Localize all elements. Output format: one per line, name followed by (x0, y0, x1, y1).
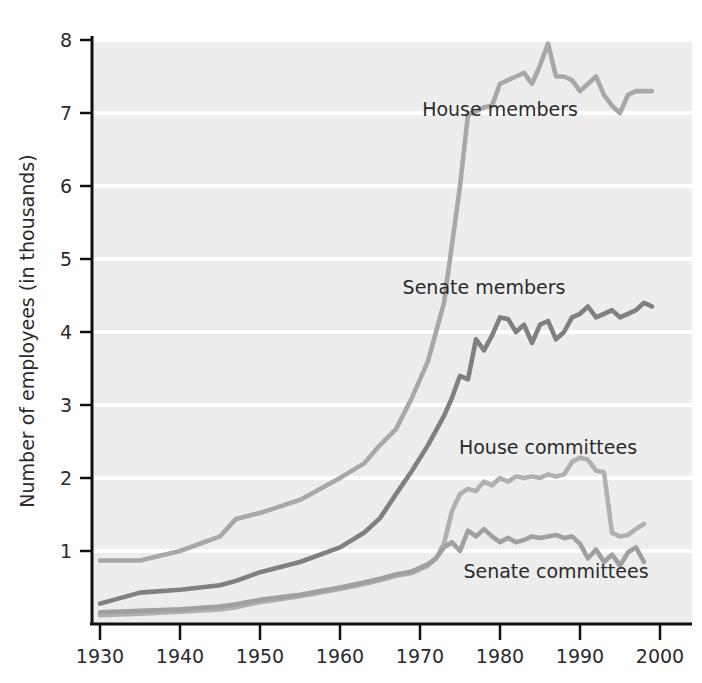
line-chart: 12345678 1930194019501960197019801990200… (0, 0, 702, 683)
x-tick-label-2000: 2000 (636, 645, 684, 667)
y-tick-label-8: 8 (60, 29, 72, 51)
series-label-house-committees: House committees (459, 436, 637, 458)
y-tick-label-2: 2 (60, 467, 72, 489)
x-tick-label-1960: 1960 (316, 645, 364, 667)
x-tick-label-1930: 1930 (76, 645, 124, 667)
x-tick-label-1950: 1950 (236, 645, 284, 667)
chart-container: 12345678 1930194019501960197019801990200… (0, 0, 702, 683)
y-tick-label-3: 3 (60, 394, 72, 416)
y-tick-label-7: 7 (60, 102, 72, 124)
x-tick-label-1940: 1940 (156, 645, 204, 667)
y-tick-label-6: 6 (60, 175, 72, 197)
x-tick-label-1980: 1980 (476, 645, 524, 667)
y-tick-label-5: 5 (60, 248, 72, 270)
x-tick-label-1990: 1990 (556, 645, 604, 667)
y-tick-label-1: 1 (60, 540, 72, 562)
series-label-senate-committees: Senate committees (463, 560, 648, 582)
series-label-senate-members: Senate members (403, 276, 566, 298)
x-tick-label-1970: 1970 (396, 645, 444, 667)
y-axis-title: Number of employees (in thousands) (16, 154, 38, 507)
y-tick-label-4: 4 (60, 321, 72, 343)
series-label-house-members: House members (422, 98, 578, 120)
